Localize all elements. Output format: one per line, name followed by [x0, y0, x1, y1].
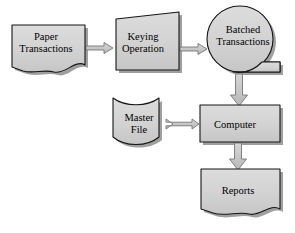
master-file-shape[interactable]: [113, 98, 159, 145]
flowchart-diagram: Paper Transactions Keying Operation Batc…: [0, 0, 295, 233]
flowchart-canvas: [0, 0, 295, 233]
computer-shape[interactable]: [200, 105, 280, 142]
keying-operation-shape[interactable]: [116, 12, 179, 70]
reports-shape[interactable]: [201, 169, 280, 214]
arrow-batched-to-computer[interactable]: [231, 74, 248, 106]
arrow-master-to-computer[interactable]: [166, 119, 199, 129]
arrow-computer-to-reports[interactable]: [230, 143, 247, 170]
node-layer: [12, 6, 280, 214]
arrow-paper-to-keying[interactable]: [86, 43, 113, 54]
arrow-keying-to-batched[interactable]: [180, 44, 207, 55]
paper-transactions-shape[interactable]: [12, 25, 85, 72]
